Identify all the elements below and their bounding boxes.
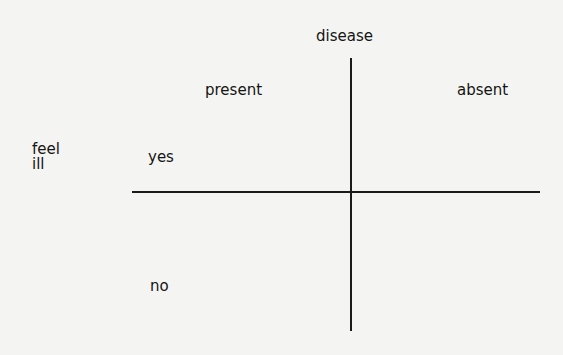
horizontal-divider	[132, 191, 540, 193]
row-variable-label: feel ill	[32, 142, 60, 172]
row-label-no: no	[150, 278, 169, 294]
column-label-present: present	[205, 82, 262, 98]
column-label-absent: absent	[457, 82, 508, 98]
column-variable-label: disease	[316, 28, 373, 44]
vertical-divider	[350, 58, 352, 331]
row-label-yes: yes	[148, 149, 174, 165]
